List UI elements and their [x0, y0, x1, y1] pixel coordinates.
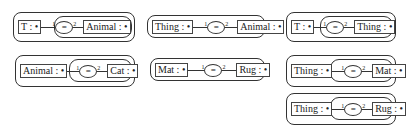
arc-2: 2 — [97, 71, 107, 72]
relation-node: = — [207, 21, 225, 34]
arc-label-2: 2 — [362, 103, 365, 109]
relation-node: = — [79, 65, 97, 78]
arc-1: 1 — [193, 27, 207, 28]
arc-1: 1 — [67, 71, 79, 72]
concept-right: Rug : • — [236, 63, 270, 77]
relation-node: = — [326, 21, 344, 34]
concept-left: T : • — [291, 20, 314, 34]
relation-node: = — [344, 103, 362, 116]
conceptual-graph-e: Mat : • 1 = 2 Rug : • — [150, 58, 265, 81]
concept-right: Thing : • — [354, 20, 395, 34]
conceptual-graph-d: Animal : • 1 = 2 Cat : • — [15, 55, 135, 87]
arc-label-1: 1 — [323, 21, 326, 27]
arc-label-2: 2 — [362, 65, 365, 71]
concept-left: Animal : • — [20, 64, 67, 78]
relation-node: = — [344, 65, 362, 78]
conceptual-graph-a: T : • 1 = 2 Animal : • — [13, 12, 135, 42]
arc-label-1: 1 — [341, 65, 344, 71]
arc-2: 2 — [362, 109, 372, 110]
arc-1: 1 — [188, 70, 204, 71]
concept-left: Thing : • — [152, 20, 193, 34]
concept-right: Cat : • — [107, 64, 138, 78]
arc-2: 2 — [222, 70, 236, 71]
relation-node: = — [204, 64, 222, 77]
arc-label-1: 1 — [201, 64, 204, 70]
concept-right: Animal : • — [83, 20, 130, 34]
conceptual-graph-f: Thing : • 1 = 2 Mat : • — [286, 55, 396, 87]
relation-node: = — [55, 21, 73, 34]
arc-2: 2 — [225, 27, 237, 28]
arc-label-1: 1 — [76, 65, 79, 71]
concept-left: T : • — [18, 20, 41, 34]
concept-right: Mat : • — [372, 64, 405, 78]
concept-left: Mat : • — [155, 63, 188, 77]
conceptual-graph-c: T : • 1 = 2 Thing : • — [286, 12, 396, 42]
arc-2: 2 — [362, 71, 372, 72]
arc-label-2: 2 — [344, 21, 347, 27]
arc-2: 2 — [344, 27, 354, 28]
arc-label-1: 1 — [52, 21, 55, 27]
concept-left: Thing : • — [291, 64, 332, 78]
concept-left: Thing : • — [291, 102, 332, 116]
arc-1: 1 — [332, 71, 344, 72]
arc-label-2: 2 — [97, 65, 100, 71]
concept-right: Rug : • — [372, 102, 406, 116]
arc-label-2: 2 — [225, 21, 228, 27]
arc-label-1: 1 — [341, 103, 344, 109]
arc-1: 1 — [332, 109, 344, 110]
arc-1: 1 — [314, 27, 326, 28]
arc-1: 1 — [41, 27, 55, 28]
concept-right: Animal : • — [237, 20, 284, 34]
arc-label-2: 2 — [222, 64, 225, 70]
arc-2: 2 — [73, 27, 83, 28]
arc-label-2: 2 — [73, 21, 76, 27]
arc-label-1: 1 — [204, 21, 207, 27]
conceptual-graph-b: Thing : • 1 = 2 Animal : • — [147, 15, 265, 38]
conceptual-graph-g: Thing : • 1 = 2 Rug : • — [286, 93, 396, 125]
